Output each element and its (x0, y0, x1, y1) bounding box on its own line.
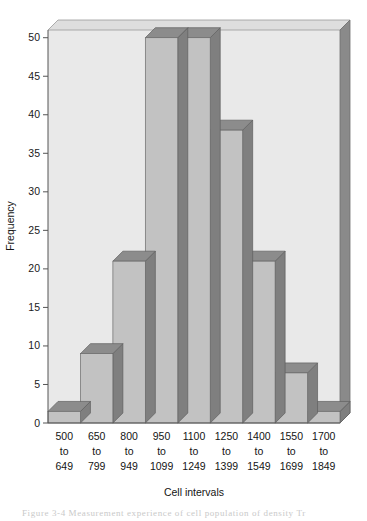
x-axis-category-label-line: to (319, 445, 328, 457)
x-axis-category-label-line: 1399 (215, 460, 239, 472)
x-axis-category-label-line: to (287, 445, 296, 457)
x-axis-category-label-line: to (125, 445, 134, 457)
x-axis-category-label-line: 1849 (312, 460, 336, 472)
y-axis-tick-label: 0 (34, 417, 40, 429)
y-axis-tick-label: 40 (28, 108, 40, 120)
y-axis-tick-label: 45 (28, 70, 40, 82)
x-axis-category-label-line: 1550 (280, 430, 304, 442)
x-axis-category-label-line: to (255, 445, 264, 457)
bar-side-face (210, 28, 220, 423)
x-axis-category-label-line: 650 (88, 430, 106, 442)
x-axis-category-label-line: to (60, 445, 69, 457)
x-axis-category-label-line: 1700 (312, 430, 336, 442)
y-axis-tick-label: 30 (28, 185, 40, 197)
y-axis-tick-label: 10 (28, 339, 40, 351)
y-axis-ticks: 05101520253035404550 (28, 31, 48, 428)
x-axis-category-label-line: 799 (88, 460, 106, 472)
x-axis-category-label-line: 1549 (247, 460, 271, 472)
y-axis-title: Frequency (4, 200, 16, 250)
x-axis-category-label-line: 800 (120, 430, 138, 442)
x-axis-category-label-line: 649 (55, 460, 73, 472)
histogram-bar (48, 401, 90, 423)
y-axis-tick-label: 20 (28, 262, 40, 274)
frame-right-bevel (340, 20, 350, 423)
bar-side-face (243, 120, 253, 423)
bar-front-face (48, 411, 80, 423)
x-axis-category-label-line: 1699 (280, 460, 304, 472)
x-axis-category-label-line: 1250 (215, 430, 239, 442)
x-axis-category-label-line: 1100 (183, 430, 206, 442)
histogram-chart: 05101520253035404550 500to649650to799800… (0, 0, 367, 521)
x-axis-category-label-line: to (222, 445, 231, 457)
x-axis-category-label-line: 1249 (182, 460, 206, 472)
bar-side-face (308, 363, 318, 423)
figure-container: 05101520253035404550 500to649650to799800… (0, 0, 367, 521)
x-axis-category-label-line: to (190, 445, 199, 457)
y-axis-tick-label: 15 (28, 301, 40, 313)
x-axis-category-label-line: to (92, 445, 101, 457)
x-axis-title: Cell intervals (164, 486, 224, 498)
x-axis-category-label-line: 950 (153, 430, 171, 442)
bar-side-face (113, 344, 123, 423)
x-axis-category-label-line: 1099 (150, 460, 174, 472)
x-axis-category-label-line: 500 (55, 430, 73, 442)
bar-side-face (145, 251, 155, 423)
x-axis-category-label-line: 1400 (247, 430, 271, 442)
bar-side-face (275, 251, 285, 423)
figure-caption: Figure 3-4 Measurement experience of cel… (22, 508, 367, 518)
y-axis-tick-label: 25 (28, 224, 40, 236)
x-axis-category-label-line: to (157, 445, 166, 457)
y-axis-tick-label: 5 (34, 378, 40, 390)
y-axis-tick-label: 50 (28, 31, 40, 43)
x-axis-category-labels: 500to649650to799800to949950to10991100to1… (55, 430, 335, 472)
bar-side-face (178, 28, 188, 423)
y-axis-tick-label: 35 (28, 147, 40, 159)
x-axis-category-label-line: 949 (120, 460, 138, 472)
